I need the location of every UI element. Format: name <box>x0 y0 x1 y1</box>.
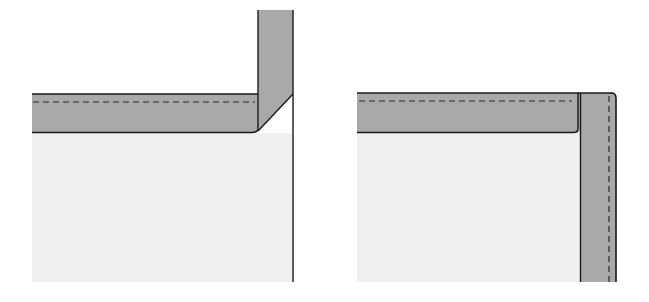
left-horizontal-binding-band <box>32 94 258 133</box>
left-figure-mitered-corner <box>32 10 293 282</box>
right-horizontal-binding-band <box>357 93 580 133</box>
right-vertical-binding-strip <box>580 93 616 282</box>
left-fabric-panel <box>32 133 293 282</box>
diagram-canvas <box>0 0 649 302</box>
right-fabric-panel <box>357 133 617 282</box>
right-figure-overlapped-corner <box>357 93 617 282</box>
